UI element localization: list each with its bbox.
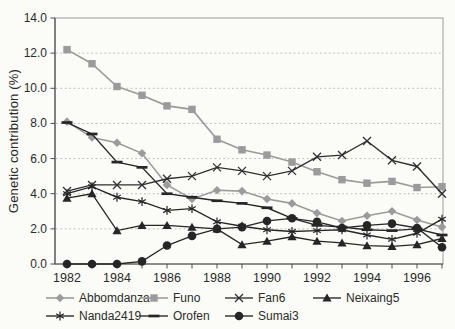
orofen-dash-marker-icon: [140, 310, 168, 322]
circle-marker: [313, 218, 322, 227]
x-tick-label: 1984: [103, 271, 131, 285]
circle-marker: [113, 260, 122, 269]
square-marker: [88, 60, 95, 67]
chart-legend: Abbomdanza Funo Fan6 Neixaing5 Nanda2419…: [0, 289, 455, 329]
square-marker: [388, 178, 395, 185]
diamond-marker: [313, 209, 322, 218]
circle-marker: [63, 260, 72, 269]
square-marker: [213, 136, 220, 143]
legend-label: Neixaing5: [346, 291, 399, 305]
circle-legend-glyph: [225, 310, 253, 322]
genetic-contribution-chart: Genetic contribution (%) 198219841986198…: [0, 0, 455, 329]
circle-marker: [338, 224, 347, 233]
legend-item-fan6: Fan6: [225, 291, 285, 305]
series-line-fan6: [67, 141, 442, 194]
square-marker: [313, 168, 320, 175]
diamond-marker: [288, 199, 297, 208]
legend-marker: [150, 294, 157, 301]
circle-marker: [163, 241, 172, 250]
legend-marker: [235, 312, 244, 321]
series-markers-abbomdanza: [63, 117, 447, 231]
circle-marker: [263, 217, 272, 226]
x-legend-glyph: [225, 292, 253, 304]
chart-canvas: 198219841986198819901992199419960.02.04.…: [0, 0, 455, 288]
circle-marker: [238, 223, 247, 232]
circle-marker: [363, 221, 372, 230]
circle-marker: [138, 257, 147, 266]
circle-marker: [413, 224, 422, 233]
circle-marker: [288, 214, 297, 223]
circle-marker: [88, 260, 97, 269]
series-line-orofen: [67, 123, 442, 235]
square-marker: [438, 183, 445, 190]
x-tick-label: 1996: [403, 271, 431, 285]
nanda2419-asterisk-marker-icon: [46, 310, 74, 322]
legend-label: Funo: [173, 291, 200, 305]
circle-marker: [213, 225, 222, 234]
legend-label: Orofen: [173, 309, 210, 323]
legend-item-neixaing5: Neixaing5: [313, 291, 399, 305]
legend-item-orofen: Orofen: [140, 309, 210, 323]
diamond-marker: [363, 211, 372, 220]
square-marker: [63, 46, 70, 53]
y-tick-label: 4.0: [30, 187, 47, 201]
diamond-legend-glyph: [46, 292, 74, 304]
x-tick-label: 1990: [253, 271, 281, 285]
square-legend-glyph: [140, 292, 168, 304]
legend-label: Nanda2419: [79, 309, 141, 323]
funo-square-marker-icon: [140, 292, 168, 304]
series-line-abbomdanza: [67, 122, 442, 227]
legend-item-funo: Funo: [140, 291, 200, 305]
diamond-marker: [388, 207, 397, 216]
square-marker: [288, 158, 295, 165]
diamond-marker: [213, 186, 222, 195]
y-tick-label: 10.0: [24, 81, 48, 95]
triangle-legend-glyph: [313, 292, 341, 304]
series-markers-funo: [63, 46, 445, 191]
x-tick-label: 1982: [53, 271, 81, 285]
square-marker: [188, 106, 195, 113]
square-marker: [363, 179, 370, 186]
legend-label: Sumai3: [258, 309, 299, 323]
x-tick-label: 1986: [153, 271, 181, 285]
legend-item-abbomdanza: Abbomdanza: [46, 291, 150, 305]
square-marker: [238, 146, 245, 153]
diamond-marker: [438, 223, 447, 232]
square-marker: [338, 176, 345, 183]
legend-label: Fan6: [258, 291, 285, 305]
series-line-sumai3: [67, 218, 442, 264]
diamond-marker: [113, 138, 122, 147]
fan6-x-marker-icon: [225, 292, 253, 304]
legend-item-nanda2419: Nanda2419: [46, 309, 141, 323]
square-marker: [113, 83, 120, 90]
circle-marker: [438, 243, 447, 252]
x-tick-label: 1994: [353, 271, 381, 285]
asterisk-legend-glyph: [46, 310, 74, 322]
x-tick-label: 1988: [203, 271, 231, 285]
series-markers-fan6: [63, 137, 446, 198]
neixaing5-triangle-marker-icon: [313, 292, 341, 304]
square-marker: [138, 92, 145, 99]
x-tick-label: 1992: [303, 271, 331, 285]
y-tick-label: 6.0: [30, 152, 47, 166]
triangle-marker: [87, 189, 96, 197]
circle-marker: [388, 219, 397, 228]
diamond-marker: [263, 195, 272, 204]
y-tick-label: 2.0: [30, 222, 47, 236]
legend-item-sumai3: Sumai3: [225, 309, 299, 323]
square-marker: [413, 184, 420, 191]
sumai3-circle-marker-icon: [225, 310, 253, 322]
series-markers-nanda2419: [63, 182, 446, 244]
circle-marker: [188, 232, 197, 241]
legend-marker: [56, 294, 65, 303]
diamond-marker: [413, 216, 422, 225]
y-tick-label: 0.0: [30, 257, 47, 271]
diamond-marker: [238, 187, 247, 196]
series-line-funo: [67, 50, 442, 188]
square-marker: [263, 151, 270, 158]
y-tick-label: 8.0: [30, 116, 47, 130]
abbomdanza-diamond-marker-icon: [46, 292, 74, 304]
dash-legend-glyph: [140, 310, 168, 322]
y-tick-label: 12.0: [24, 46, 48, 60]
square-marker: [163, 102, 170, 109]
